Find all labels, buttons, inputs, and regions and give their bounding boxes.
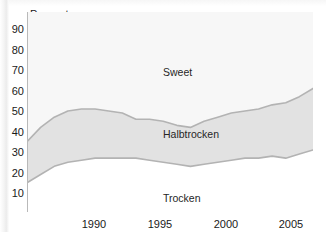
area-series-layer <box>27 12 313 212</box>
series-label-sweet: Sweet <box>163 66 192 78</box>
x-tick-label: 2000 <box>206 218 246 230</box>
series-label-halbtrocken: Halbtrocken <box>163 128 219 140</box>
plot-area <box>27 12 313 212</box>
stacked-area-chart-svg <box>27 12 313 212</box>
x-tick-label: 2005 <box>271 218 311 230</box>
chart-root: Percent 90 80 70 60 50 40 30 20 10 1990 … <box>0 0 326 248</box>
x-tick-label: 1995 <box>140 218 180 230</box>
x-tick-label: 1990 <box>74 218 114 230</box>
series-label-trocken: Trocken <box>163 192 201 204</box>
